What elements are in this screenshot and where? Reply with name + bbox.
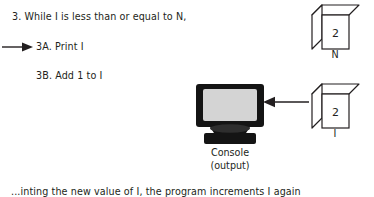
console-caption: Console (output) xyxy=(180,146,280,172)
cube-label-n: N xyxy=(310,49,360,60)
console-caption-line1: Console xyxy=(180,146,280,159)
cube-value-n: 2 xyxy=(332,27,339,40)
pseudocode-line-print: 3A. Print I xyxy=(36,41,84,53)
crt-monitor-icon xyxy=(196,83,264,145)
pseudocode-line-while: 3. While I is less than or equal to N, xyxy=(12,11,186,23)
body-caption-text: ...inting the new value of I, the progra… xyxy=(11,186,301,197)
cube-icon-n: 2 xyxy=(310,4,360,50)
cube-label-i: I xyxy=(310,128,360,139)
arrow-left-icon xyxy=(262,95,310,109)
console-caption-line2: (output) xyxy=(180,159,280,172)
pseudocode-line-add: 3B. Add 1 to I xyxy=(36,70,102,82)
figure-canvas: 3. While I is less than or equal to N, 3… xyxy=(0,0,374,197)
cube-value-i: 2 xyxy=(332,106,339,119)
cube-icon-i: 2 xyxy=(310,83,360,129)
arrow-right-icon xyxy=(2,41,34,53)
